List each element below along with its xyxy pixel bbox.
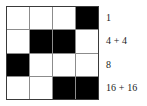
grid-cell	[53, 7, 75, 29]
grid-cell	[53, 54, 75, 76]
grid-cell	[30, 30, 52, 52]
row-label-column: 1 4 + 4 8 16 + 16	[106, 6, 147, 100]
row-label-text: 16 + 16	[106, 83, 137, 93]
row-label-item: 1	[106, 6, 147, 30]
grid-cell	[76, 7, 98, 29]
row-label-text: 8	[106, 60, 111, 70]
row-label-item: 4 + 4	[106, 30, 147, 54]
grid-cell	[76, 77, 98, 99]
grid-cell	[30, 77, 52, 99]
row-label-text: 1	[106, 13, 111, 23]
grid-cell	[76, 30, 98, 52]
row-label-item: 16 + 16	[106, 77, 147, 101]
grid-cell	[30, 7, 52, 29]
grid-cell	[7, 77, 29, 99]
cell-grid	[6, 6, 99, 100]
row-label-item: 8	[106, 53, 147, 77]
grid-cell	[53, 77, 75, 99]
grid-cell	[30, 54, 52, 76]
binary-grid-figure: 1 4 + 4 8 16 + 16	[0, 0, 147, 106]
grid-cell	[76, 54, 98, 76]
grid-cell	[7, 54, 29, 76]
grid-cell	[53, 30, 75, 52]
grid-cell	[7, 30, 29, 52]
row-label-text: 4 + 4	[106, 36, 127, 46]
grid-cell	[7, 7, 29, 29]
